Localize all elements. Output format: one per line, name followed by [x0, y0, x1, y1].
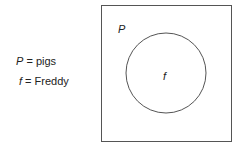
- element-label: f: [163, 70, 167, 82]
- universe-label: P: [118, 23, 126, 35]
- venn-diagram: P f: [0, 0, 246, 150]
